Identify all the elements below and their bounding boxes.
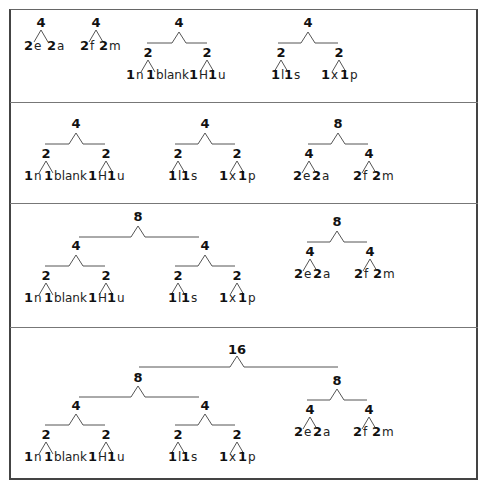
node-weight: 2: [202, 45, 211, 60]
branch-bracket: [147, 32, 207, 43]
node-weight: 2: [232, 146, 241, 161]
leaf-label: 1n: [126, 67, 144, 82]
leaf-label: 1x: [219, 290, 236, 305]
node-weight: 4: [71, 116, 80, 131]
branch-bracket: [45, 255, 105, 266]
leaf-label: 2e: [294, 424, 311, 439]
node-weight: 4: [364, 402, 373, 417]
node-weight: 2: [232, 268, 241, 283]
leaf-label: 1l: [168, 290, 181, 305]
node-weight: 4: [365, 244, 374, 259]
leaf-label: 1H: [88, 290, 107, 305]
leaf-label: 1l: [168, 168, 181, 183]
leaf-label: 1p: [238, 290, 256, 305]
node-weight: 4: [174, 15, 183, 30]
leaf-label: 1u: [208, 67, 226, 82]
leaf-label: 2m: [99, 38, 121, 53]
leaf-label: 1blank: [44, 290, 87, 305]
leaf-label: 1blank: [44, 449, 87, 464]
leaf-label: 2m: [373, 266, 395, 281]
leaf-label: 2m: [372, 424, 394, 439]
node-weight: 4: [305, 244, 314, 259]
branch-bracket: [307, 231, 367, 242]
leaf-label: 1s: [181, 290, 197, 305]
leaf-label: 2m: [372, 168, 394, 183]
leaf-label: 1H: [189, 67, 208, 82]
node-weight: 4: [91, 15, 100, 30]
node-weight: 2: [143, 45, 152, 60]
node-weight: 4: [200, 238, 209, 253]
leaf-label: 1blank: [146, 67, 189, 82]
node-weight: 4: [36, 15, 45, 30]
node-weight: 8: [332, 214, 341, 229]
branch-bracket: [307, 389, 367, 400]
node-weight: 4: [304, 146, 313, 161]
node-weight: 8: [333, 116, 342, 131]
tree-diagram-canvas: 42e2a42f2m421n1blank21H1u421l1s21x1p421n…: [0, 0, 487, 486]
node-weight: 16: [228, 342, 246, 357]
leaf-label: 1s: [181, 449, 197, 464]
node-weight: 2: [41, 146, 50, 161]
node-weight: 4: [303, 15, 312, 30]
leaf-label: 2a: [47, 38, 64, 53]
node-weight: 2: [41, 427, 50, 442]
leaf-label: 1H: [88, 449, 107, 464]
leaf-label: 1x: [219, 449, 236, 464]
node-weight: 2: [232, 427, 241, 442]
leaf-label: 1n: [24, 168, 42, 183]
node-weight: 2: [173, 268, 182, 283]
leaf-label: 1x: [321, 67, 338, 82]
leaf-label: 1x: [219, 168, 236, 183]
leaf-label: 2f: [80, 38, 95, 53]
node-weight: 2: [173, 146, 182, 161]
node-weight: 2: [41, 268, 50, 283]
node-weight: 4: [305, 402, 314, 417]
node-weight: 8: [332, 373, 341, 388]
node-weight: 4: [200, 116, 209, 131]
branch-bracket: [308, 133, 368, 144]
branch-bracket: [139, 356, 338, 367]
leaf-label: 1n: [24, 290, 42, 305]
node-weight: 4: [200, 398, 209, 413]
leaf-label: 1u: [107, 290, 125, 305]
node-weight: 4: [71, 238, 80, 253]
branch-bracket: [175, 255, 235, 266]
node-weight: 2: [101, 427, 110, 442]
leaf-label: 1s: [284, 67, 300, 82]
node-weight: 4: [71, 398, 80, 413]
node-weight: 2: [101, 146, 110, 161]
node-weight: 8: [133, 209, 142, 224]
leaf-label: 2f: [353, 424, 368, 439]
branch-bracket: [45, 414, 105, 425]
leaf-label: 1l: [168, 449, 181, 464]
branch-bracket: [45, 133, 105, 144]
leaf-label: 1l: [271, 67, 284, 82]
leaf-label: 2a: [313, 424, 330, 439]
node-weight: 8: [133, 370, 142, 385]
leaf-label: 2e: [293, 168, 310, 183]
leaf-label: 1u: [107, 168, 125, 183]
branch-bracket: [79, 226, 199, 237]
leaf-label: 2f: [354, 266, 369, 281]
branch-bracket: [278, 32, 338, 43]
leaf-label: 1p: [238, 449, 256, 464]
leaf-label: 2e: [294, 266, 311, 281]
leaf-label: 1blank: [44, 168, 87, 183]
leaf-label: 2e: [24, 38, 41, 53]
branch-bracket: [79, 386, 199, 397]
branch-bracket: [175, 133, 235, 144]
leaf-label: 1H: [88, 168, 107, 183]
leaf-label: 1u: [107, 449, 125, 464]
leaf-label: 2a: [313, 266, 330, 281]
node-weight: 2: [173, 427, 182, 442]
node-weight: 2: [101, 268, 110, 283]
leaf-label: 1p: [340, 67, 358, 82]
node-weight: 2: [276, 45, 285, 60]
leaf-label: 1n: [24, 449, 42, 464]
leaf-label: 1p: [238, 168, 256, 183]
leaf-label: 2f: [353, 168, 368, 183]
branch-bracket: [175, 414, 235, 425]
leaf-label: 2a: [312, 168, 329, 183]
node-weight: 4: [364, 146, 373, 161]
node-weight: 2: [334, 45, 343, 60]
